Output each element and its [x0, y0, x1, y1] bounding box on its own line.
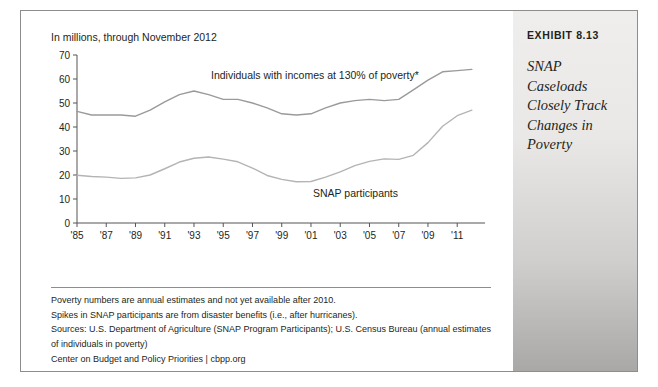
svg-text:70: 70: [59, 50, 71, 61]
chart-panel: In millions, through November 2012 01020…: [21, 11, 515, 371]
note-line-1: Poverty numbers are annual estimates and…: [51, 294, 503, 308]
note-line-4: of individuals in poverty): [51, 338, 503, 352]
svg-text:10: 10: [59, 194, 71, 205]
exhibit-frame: In millions, through November 2012 01020…: [20, 10, 638, 372]
svg-text:'11: '11: [451, 230, 464, 241]
svg-text:'99: '99: [275, 230, 288, 241]
svg-text:'91: '91: [158, 230, 171, 241]
screenshot-page: In millions, through November 2012 01020…: [0, 0, 658, 387]
exhibit-title: SNAP Caseloads Closely Track Changes in …: [527, 57, 625, 155]
svg-text:40: 40: [59, 122, 71, 133]
note-line-5: Center on Budget and Policy Priorities |…: [51, 353, 503, 367]
svg-text:'07: '07: [392, 230, 405, 241]
svg-text:'09: '09: [421, 230, 434, 241]
exhibit-number: EXHIBIT 8.13: [527, 29, 625, 41]
chart-caption: In millions, through November 2012: [51, 31, 217, 43]
svg-text:'95: '95: [217, 230, 230, 241]
svg-text:'01: '01: [304, 230, 317, 241]
svg-text:30: 30: [59, 146, 71, 157]
note-line-2: Spikes in SNAP participants are from dis…: [51, 309, 503, 323]
series-label-snap: SNAP participants: [313, 187, 398, 199]
svg-text:'97: '97: [246, 230, 259, 241]
svg-text:60: 60: [59, 74, 71, 85]
svg-text:'93: '93: [187, 230, 200, 241]
svg-text:0: 0: [64, 218, 70, 229]
footer-divider: [51, 287, 491, 288]
svg-text:'03: '03: [334, 230, 347, 241]
chart-plot-area: 010203040506070'85'87'89'91'93'95'97'99'…: [51, 49, 491, 249]
svg-text:'89: '89: [129, 230, 142, 241]
svg-text:'05: '05: [363, 230, 376, 241]
svg-text:'87: '87: [100, 230, 113, 241]
note-line-3: Sources: U.S. Department of Agriculture …: [51, 323, 503, 337]
series-label-poverty: Individuals with incomes at 130% of pove…: [211, 69, 419, 81]
svg-text:20: 20: [59, 170, 71, 181]
svg-text:50: 50: [59, 98, 71, 109]
chart-notes: Poverty numbers are annual estimates and…: [51, 294, 503, 367]
svg-text:'85: '85: [70, 230, 83, 241]
exhibit-sidebar: EXHIBIT 8.13 SNAP Caseloads Closely Trac…: [513, 11, 637, 371]
